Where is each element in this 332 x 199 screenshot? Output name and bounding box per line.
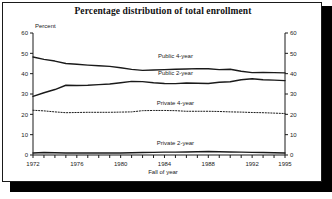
x-tick-label: 1984 bbox=[158, 161, 172, 167]
y-tick-label-right: 30 bbox=[290, 91, 297, 97]
x-tick-label: 1992 bbox=[245, 161, 259, 167]
y-tick-label-right: 0 bbox=[290, 152, 294, 158]
card-shadow-right bbox=[322, 6, 332, 192]
x-tick-label: 1972 bbox=[26, 161, 40, 167]
y-tick-label-left: 60 bbox=[21, 30, 28, 36]
series-label-private-4-year: Private 4-year bbox=[157, 100, 194, 106]
series-label-public-4-year: Public 4-year bbox=[158, 53, 193, 59]
x-tick-label: 1995 bbox=[278, 161, 292, 167]
series-line-private-4-year bbox=[33, 110, 285, 113]
y-tick-label-right: 50 bbox=[290, 51, 297, 57]
y-tick-label-right: 10 bbox=[290, 132, 297, 138]
x-tick-label: 1988 bbox=[202, 161, 216, 167]
y-tick-label-left: 20 bbox=[21, 112, 28, 118]
y-tick-label-left: 30 bbox=[21, 91, 28, 97]
y-tick-label-left: 40 bbox=[21, 71, 28, 77]
series-label-private-2-year: Private 2-year bbox=[157, 140, 194, 146]
y-tick-label-right: 40 bbox=[290, 71, 297, 77]
series-line-private-2-year bbox=[33, 152, 285, 153]
y-tick-label-left: 0 bbox=[25, 152, 29, 158]
x-tick-label: 1976 bbox=[70, 161, 84, 167]
y-tick-label-right: 60 bbox=[290, 30, 297, 36]
series-label-public-2-year: Public 2-year bbox=[158, 70, 193, 76]
y-tick-label-right: 20 bbox=[290, 112, 297, 118]
x-tick-label: 1980 bbox=[114, 161, 128, 167]
screenshot-root: Percentage distribution of total enrollm… bbox=[0, 0, 332, 199]
x-axis-caption: Fall of year bbox=[3, 169, 322, 175]
y-tick-label-left: 50 bbox=[21, 51, 28, 57]
y-tick-label-left: 10 bbox=[21, 132, 28, 138]
chart-card: Percentage distribution of total enrollm… bbox=[2, 2, 322, 182]
line-chart-plot: 0010102020303040405050606019721976198019… bbox=[3, 3, 322, 182]
series-line-public-2-year bbox=[33, 79, 285, 97]
card-shadow-bottom bbox=[10, 182, 332, 192]
